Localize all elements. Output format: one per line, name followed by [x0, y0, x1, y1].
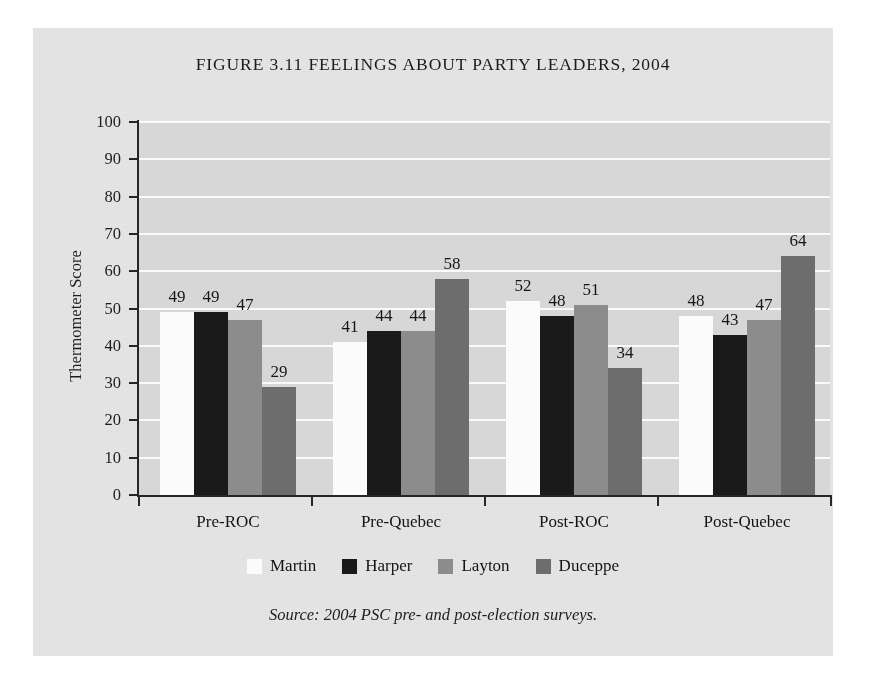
y-axis-tick-label: 90 [69, 149, 121, 169]
x-axis-category-label: Post-ROC [484, 512, 664, 532]
x-axis-tick [484, 497, 486, 506]
legend-item-duceppe[interactable]: Duceppe [536, 556, 619, 576]
bar-value-label: 29 [249, 362, 309, 382]
x-axis-tick [138, 497, 140, 506]
bar-harper-pre-roc [194, 312, 228, 495]
legend-swatch-icon [247, 559, 262, 574]
x-axis-tick [830, 497, 832, 506]
legend-label: Layton [461, 556, 509, 576]
bar-martin-post-roc [506, 301, 540, 495]
bar-martin-pre-roc [160, 312, 194, 495]
gridline [138, 196, 830, 198]
y-axis-tick-label: 0 [69, 485, 121, 505]
legend-item-martin[interactable]: Martin [247, 556, 316, 576]
y-axis-tick [129, 308, 138, 310]
bar-value-label: 47 [215, 295, 275, 315]
gridline [138, 158, 830, 160]
bar-harper-pre-quebec [367, 331, 401, 495]
chart-legend: MartinHarperLaytonDuceppe [33, 556, 833, 576]
legend-swatch-icon [342, 559, 357, 574]
figure-panel: FIGURE 3.11 FEELINGS ABOUT PARTY LEADERS… [33, 28, 833, 656]
y-axis-tick [129, 270, 138, 272]
y-axis-tick-label: 10 [69, 448, 121, 468]
y-axis-tick-label: 40 [69, 336, 121, 356]
bar-value-label: 51 [561, 280, 621, 300]
bar-layton-post-roc [574, 305, 608, 495]
x-axis-tick [311, 497, 313, 506]
gridline [138, 121, 830, 123]
figure-title: FIGURE 3.11 FEELINGS ABOUT PARTY LEADERS… [33, 54, 833, 75]
gridline [138, 270, 830, 272]
source-note: Source: 2004 PSC pre- and post-election … [33, 605, 833, 625]
bar-layton-pre-quebec [401, 331, 435, 495]
x-axis-category-label: Pre-ROC [138, 512, 318, 532]
bar-value-label: 58 [422, 254, 482, 274]
bar-layton-post-quebec [747, 320, 781, 495]
bar-value-label: 64 [768, 231, 828, 251]
y-axis-tick-label: 80 [69, 187, 121, 207]
bar-martin-post-quebec [679, 316, 713, 495]
legend-label: Duceppe [559, 556, 619, 576]
bar-duceppe-post-roc [608, 368, 642, 495]
bar-martin-pre-quebec [333, 342, 367, 495]
bar-duceppe-post-quebec [781, 256, 815, 495]
y-axis-tick-label: 20 [69, 410, 121, 430]
bar-value-label: 34 [595, 343, 655, 363]
y-axis-tick [129, 419, 138, 421]
y-axis-tick [129, 233, 138, 235]
legend-label: Harper [365, 556, 412, 576]
legend-swatch-icon [438, 559, 453, 574]
y-axis-tick [129, 457, 138, 459]
y-axis-tick [129, 158, 138, 160]
bar-value-label: 47 [734, 295, 794, 315]
legend-swatch-icon [536, 559, 551, 574]
bar-harper-post-quebec [713, 335, 747, 495]
y-axis-tick-label: 50 [69, 299, 121, 319]
legend-item-harper[interactable]: Harper [342, 556, 412, 576]
bar-duceppe-pre-roc [262, 387, 296, 495]
y-axis-tick [129, 196, 138, 198]
y-axis-tick-label: 30 [69, 373, 121, 393]
y-axis-tick-label: 100 [69, 112, 121, 132]
y-axis-tick [129, 121, 138, 123]
bar-layton-pre-roc [228, 320, 262, 495]
bar-harper-post-roc [540, 316, 574, 495]
y-axis-tick-label: 70 [69, 224, 121, 244]
x-axis-category-label: Post-Quebec [657, 512, 837, 532]
x-axis-category-label: Pre-Quebec [311, 512, 491, 532]
x-axis-tick [657, 497, 659, 506]
y-axis-tick [129, 382, 138, 384]
y-axis-tick [129, 494, 138, 496]
legend-item-layton[interactable]: Layton [438, 556, 509, 576]
bar-value-label: 48 [666, 291, 726, 311]
y-axis-tick-label: 60 [69, 261, 121, 281]
bar-value-label: 44 [388, 306, 448, 326]
gridline [138, 233, 830, 235]
legend-label: Martin [270, 556, 316, 576]
y-axis-tick [129, 345, 138, 347]
